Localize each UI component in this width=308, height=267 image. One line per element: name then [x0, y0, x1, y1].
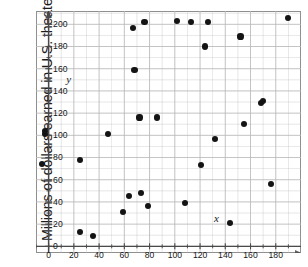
- tick-labels-layer: y x 020406080100120140160180200020406080…: [36, 11, 301, 253]
- x-tick-label: 100: [168, 250, 182, 260]
- y-tick-label: 140: [53, 86, 67, 96]
- y-tick-label: 180: [53, 41, 67, 51]
- x-tick-label: 0: [46, 250, 51, 260]
- y-tick-label: 20: [53, 219, 63, 229]
- x-tick-label: 60: [120, 250, 130, 260]
- x-axis-symbol-label: x: [214, 212, 219, 224]
- y-axis-symbol-label: y: [66, 73, 71, 85]
- scatter-plot-figure: Millions of dollars earned in U.S. theat…: [0, 0, 308, 267]
- y-tick-label: 160: [53, 64, 67, 74]
- y-tick-label: 100: [53, 130, 67, 140]
- x-tick-label: 140: [218, 250, 232, 260]
- y-tick-label: 120: [53, 108, 67, 118]
- x-tick-label: 160: [243, 250, 257, 260]
- y-tick-label: 60: [53, 175, 63, 185]
- x-tick-label: 20: [69, 250, 79, 260]
- y-tick-label: 200: [53, 19, 67, 29]
- y-tick-label: 80: [53, 152, 63, 162]
- y-tick-label: 40: [53, 197, 63, 207]
- y-tick-label: 0: [53, 241, 58, 251]
- plot-area: y x 020406080100120140160180200020406080…: [36, 11, 301, 253]
- x-tick-label: 180: [269, 250, 283, 260]
- x-tick-label: 40: [94, 250, 104, 260]
- x-tick-label: 80: [145, 250, 155, 260]
- x-tick-label: 120: [193, 250, 207, 260]
